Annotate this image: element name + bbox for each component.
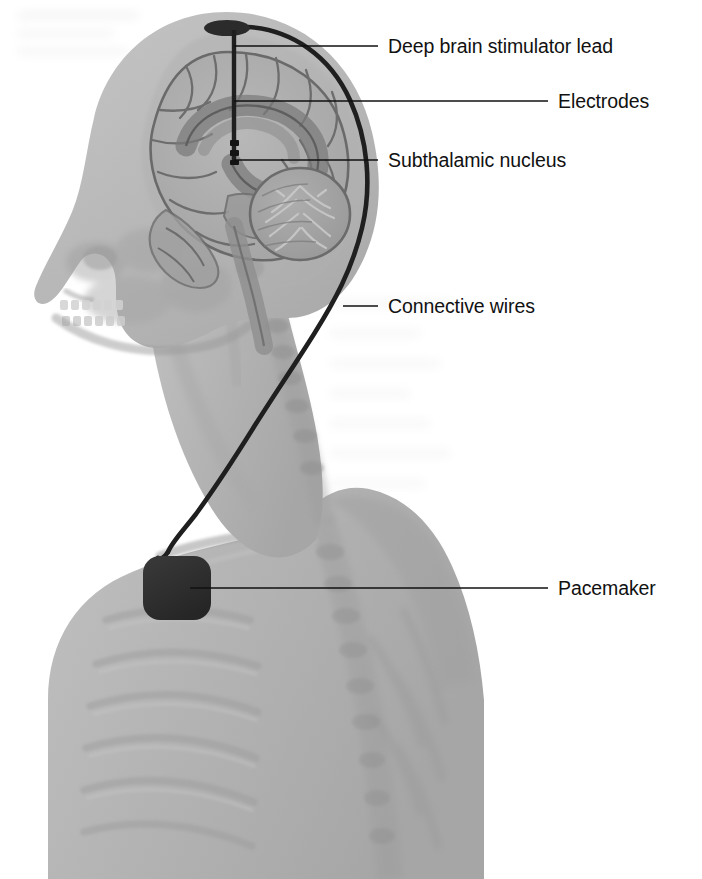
label-connective-wires: Connective wires (388, 295, 535, 317)
orbit (83, 246, 117, 270)
electrode-contacts (230, 140, 239, 165)
dbs-figure: Deep brain stimulator lead Electrodes Su… (0, 0, 702, 879)
burr-hole-cap (204, 20, 250, 36)
label-deep-brain-stimulator-lead: Deep brain stimulator lead (388, 35, 613, 57)
label-subthalamic-nucleus: Subthalamic nucleus (388, 149, 566, 171)
label-electrodes: Electrodes (558, 90, 649, 112)
anatomy-illustration: Deep brain stimulator lead Electrodes Su… (0, 0, 702, 879)
label-pacemaker: Pacemaker (558, 577, 656, 599)
